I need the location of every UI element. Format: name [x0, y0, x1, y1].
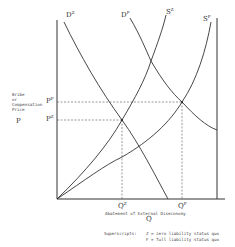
legend-line-full: F = full liability status quo: [146, 237, 219, 242]
supply-curve-zero: [57, 15, 166, 199]
supply-curve-full: [57, 22, 211, 199]
quantity-label-qf: QF: [178, 202, 187, 210]
price-label-pf: PF: [46, 97, 54, 105]
quantity-label-qz: QZ: [118, 202, 127, 210]
equilibrium-point-zero: [121, 119, 123, 121]
y-axis-symbol: P: [16, 118, 21, 125]
curve-label-sz: SZ: [166, 8, 174, 16]
equilibrium-point-full: [181, 101, 183, 103]
demand-curve-zero: [64, 22, 168, 199]
legend-line-zero: Z = zero liability status quo: [146, 231, 219, 236]
demand-curve-full: [130, 18, 217, 130]
price-label-pz: PZ: [46, 115, 54, 123]
curve-label-sf: SF: [203, 15, 211, 23]
curve-label-df: DF: [121, 11, 130, 19]
curve-label-dz: DZ: [66, 11, 75, 19]
legend-heading: Superscripts:: [104, 231, 137, 236]
y-axis-title: Bribe or Compensation Price: [12, 92, 42, 112]
x-axis-symbol: Q: [146, 216, 152, 223]
